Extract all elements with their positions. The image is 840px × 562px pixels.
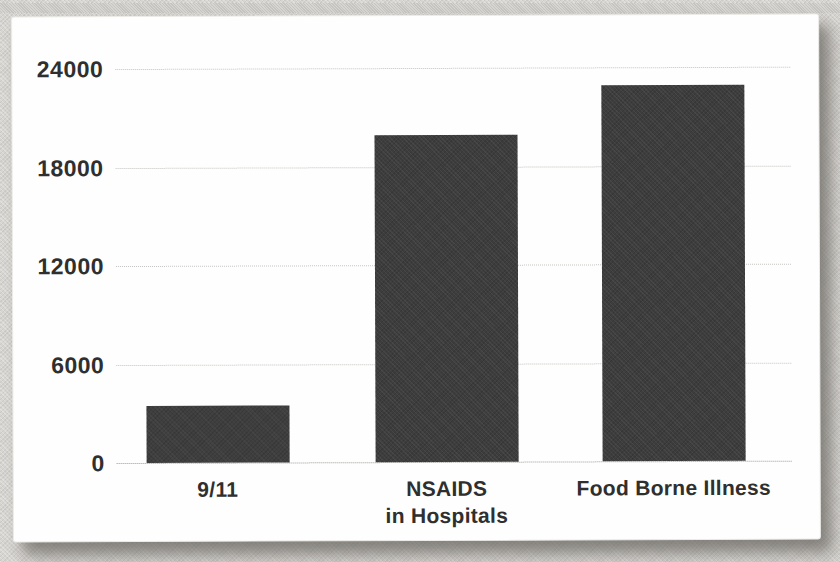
y-tick-label-24000: 24000: [12, 55, 103, 83]
bar-nsaids-in-hospitals: [374, 135, 518, 462]
bar-9-11: [146, 405, 289, 463]
scan-edge-strip: [0, 3, 840, 13]
gridline-24000: [115, 67, 790, 70]
plot-area: 9/11NSAIDS in HospitalsFood Borne Illnes…: [115, 67, 791, 463]
y-tick-label-18000: 18000: [13, 154, 104, 182]
bar-food-borne-illness: [601, 85, 745, 461]
y-tick-label-0: 0: [14, 449, 105, 477]
y-tick-label-6000: 6000: [13, 351, 104, 379]
x-category-label-food-borne-illness: Food Borne Illness: [514, 474, 834, 502]
scanned-page: { "page": { "background_color": "#d7d5d1…: [0, 0, 840, 562]
y-tick-label-12000: 12000: [13, 252, 104, 280]
chart-card: 9/11NSAIDS in HospitalsFood Borne Illnes…: [11, 14, 821, 543]
